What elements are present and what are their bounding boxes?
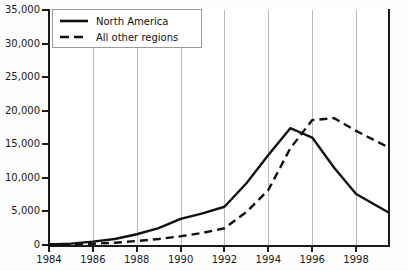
series-line-north-america: [49, 128, 389, 244]
legend-label-all-other-regions: All other regions: [96, 32, 178, 43]
legend-item-north-america: North America: [59, 13, 195, 29]
legend-swatch-dashed: [59, 31, 89, 43]
series-line-all-other-regions: [49, 118, 389, 245]
chart-legend: North America All other regions: [52, 9, 202, 48]
legend-item-all-other-regions: All other regions: [59, 29, 195, 45]
legend-label-north-america: North America: [96, 16, 168, 27]
line-chart: 05,00010,00015,00020,00025,00030,00035,0…: [0, 0, 408, 271]
legend-swatch-solid: [59, 15, 89, 27]
